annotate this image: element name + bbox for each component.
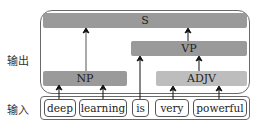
arrow-is-vp-icon: [137, 56, 143, 99]
arrow-np-s-icon: [83, 28, 89, 71]
arrow-deep-np-icon: [56, 85, 62, 99]
arrows-layer: [0, 0, 263, 129]
arrow-learning-np-icon: [100, 85, 106, 99]
arrow-vp-s-icon: [185, 28, 191, 41]
arrow-adjv-vp-icon: [196, 56, 202, 71]
arrow-very-adjv-icon: [170, 86, 176, 99]
arrow-powerful-adjv-icon: [216, 86, 222, 99]
